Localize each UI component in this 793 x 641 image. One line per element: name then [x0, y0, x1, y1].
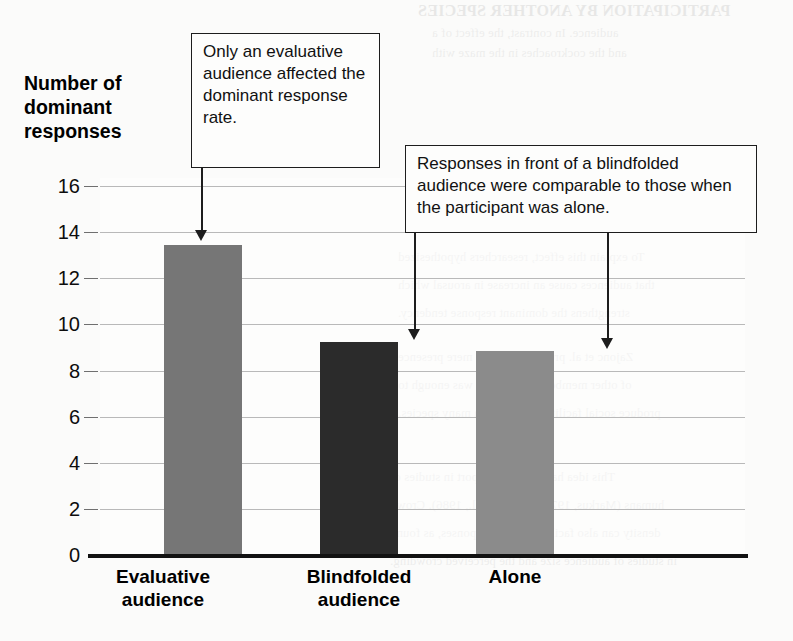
ghost-line: and the cockroaches in the maze with — [432, 46, 627, 61]
y-axis-labels: 16 14 12 10 8 6 4 2 0 — [28, 0, 80, 641]
y-label-10: 10 — [34, 313, 80, 336]
y-label-8: 8 — [34, 360, 80, 383]
tick-2 — [84, 509, 98, 510]
y-label-2: 2 — [34, 498, 80, 521]
tick-8 — [84, 371, 98, 372]
bar-evaluative-audience — [164, 245, 242, 556]
y-label-12: 12 — [34, 267, 80, 290]
y-label-6: 6 — [34, 406, 80, 429]
tick-14 — [84, 232, 98, 233]
y-label-14: 14 — [34, 221, 80, 244]
ghost-line: audience. In contrast, the effect of a — [432, 26, 618, 41]
x-label-alone: Alone — [456, 565, 574, 588]
bar-blindfolded-audience — [320, 342, 398, 556]
callout-1-arrow-head — [195, 230, 207, 241]
callout-2-arrow-head-right — [601, 338, 613, 349]
callout-2-arrow-head-left — [408, 329, 420, 340]
figure-canvas: PARTICIPATION BY ANOTHER SPECIES audienc… — [0, 0, 793, 641]
x-label-line2: audience — [300, 588, 418, 611]
callout-1-arrow-line — [201, 168, 203, 232]
tick-12 — [84, 278, 98, 279]
tick-16 — [84, 186, 98, 187]
x-label-line1: Evaluative — [104, 565, 222, 588]
callout-blindfolded-and-alone: Responses in front of a blindfolded audi… — [405, 145, 757, 233]
y-label-0: 0 — [34, 544, 80, 567]
y-label-16: 16 — [34, 175, 80, 198]
tick-6 — [84, 417, 98, 418]
x-label-line1: Blindfolded — [300, 565, 418, 588]
tick-10 — [84, 324, 98, 325]
x-label-blindfolded-audience: Blindfolded audience — [300, 565, 418, 611]
callout-2-arrow-line-left — [414, 233, 416, 331]
x-label-evaluative-audience: Evaluative audience — [104, 565, 222, 611]
ghost-line: PARTICIPATION BY ANOTHER SPECIES — [418, 2, 730, 20]
y-label-4: 4 — [34, 452, 80, 475]
callout-2-arrow-line-right — [607, 233, 609, 340]
x-axis-baseline — [88, 554, 748, 558]
x-label-line2: audience — [104, 588, 222, 611]
callout-evaluative-audience: Only an evaluative audience affected the… — [191, 33, 380, 168]
bar-alone — [476, 351, 554, 556]
x-label-line1: Alone — [456, 565, 574, 588]
tick-4 — [84, 463, 98, 464]
